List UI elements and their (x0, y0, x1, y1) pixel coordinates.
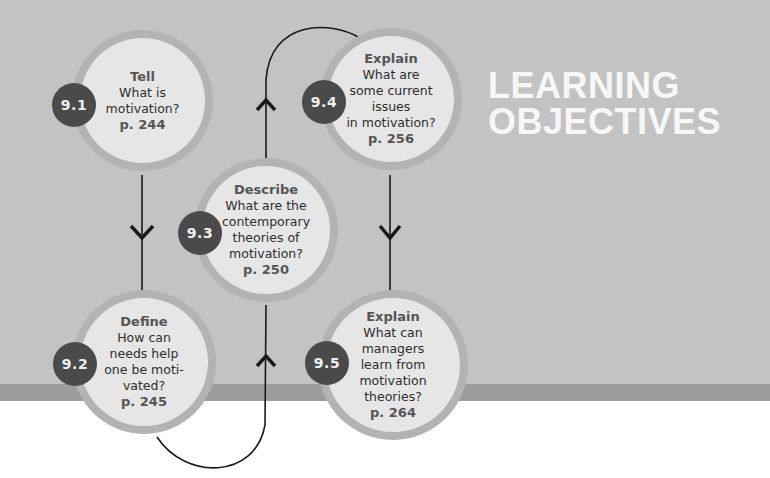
objective-verb: Describe (234, 182, 298, 198)
objective-badge-9-5: 9.5 (305, 341, 349, 385)
objective-verb: Explain (364, 51, 418, 67)
objective-question: How can needs help one be moti- vated? (104, 330, 184, 394)
objective-question: What are the contemporary theories of mo… (222, 198, 310, 262)
objective-badge-9-2: 9.2 (53, 342, 97, 386)
objective-badge-9-4: 9.4 (302, 80, 346, 124)
objective-verb: Define (120, 314, 167, 330)
objective-page: p. 264 (370, 405, 416, 421)
objective-question: What is motivation? (106, 85, 180, 117)
objective-node-9-1: Tell What is motivation? p. 244 (80, 38, 205, 163)
page-title: LEARNING OBJECTIVES (488, 68, 721, 140)
objective-badge-9-1: 9.1 (52, 83, 96, 127)
objective-node-9-2: Define How can needs help one be moti- v… (80, 298, 208, 426)
objective-page: p. 256 (368, 131, 414, 147)
objective-page: p. 245 (121, 394, 167, 410)
objective-question: What can managers learn from motivation … (359, 325, 426, 405)
objective-verb: Explain (366, 309, 420, 325)
objective-badge-9-3: 9.3 (178, 211, 222, 255)
objective-page: p. 244 (120, 117, 166, 133)
title-line-1: LEARNING (488, 68, 721, 104)
title-line-2: OBJECTIVES (488, 104, 721, 140)
objective-verb: Tell (130, 69, 155, 85)
objective-question: What are some current issues in motivati… (346, 67, 435, 131)
objective-page: p. 250 (243, 262, 289, 278)
objective-node-9-4: Explain What are some current issues in … (328, 36, 454, 162)
